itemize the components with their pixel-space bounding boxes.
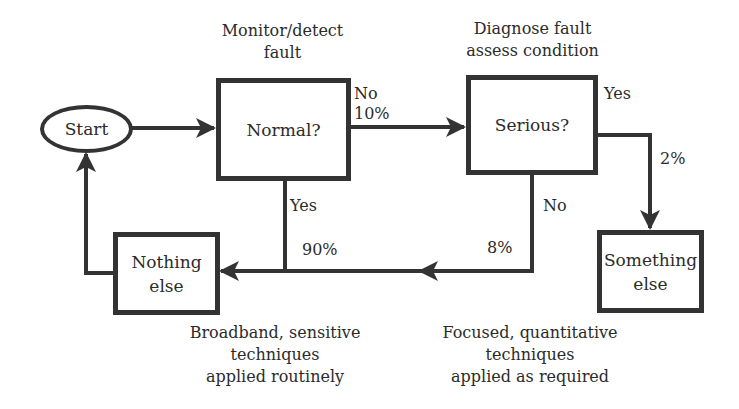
serious-caption: Diagnose fault assess condition [455, 18, 610, 62]
arrow-nothing-to-start [86, 154, 113, 273]
edge-percent-serious-yes: 2% [660, 148, 685, 170]
arrow-serious-yes [597, 135, 650, 228]
edge-label-normal-yes: Yes [290, 195, 317, 217]
normal-decision-box: Normal? [216, 78, 351, 181]
edge-percent-normal-no: 10% [354, 103, 390, 125]
normal-caption: Monitor/detect fault [205, 20, 360, 64]
edge-percent-normal-yes: 90% [302, 239, 338, 261]
edge-label-normal-no: No [354, 83, 378, 105]
note-broadband: Broadband, sensitive techniques applied … [180, 322, 370, 388]
nothing-else-box: Nothing else [113, 232, 220, 315]
edge-label-serious-yes: Yes [604, 83, 631, 105]
something-else-box: Something else [597, 230, 704, 313]
normal-label: Normal? [246, 118, 320, 142]
arrow-serious-no [420, 174, 532, 271]
start-node: Start [40, 105, 133, 153]
edge-label-serious-no: No [543, 195, 567, 217]
serious-label: Serious? [495, 113, 569, 137]
edge-percent-serious-no: 8% [487, 237, 512, 259]
note-focused: Focused, quantitative techniques applied… [430, 322, 630, 388]
serious-decision-box: Serious? [466, 75, 598, 175]
start-label: Start [65, 117, 109, 141]
